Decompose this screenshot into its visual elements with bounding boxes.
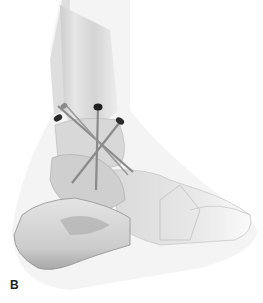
panel-label: B — [10, 278, 19, 292]
ankle-illustration — [0, 0, 263, 303]
medical-figure: B — [0, 0, 263, 303]
screw-head-center-icon — [94, 104, 103, 111]
